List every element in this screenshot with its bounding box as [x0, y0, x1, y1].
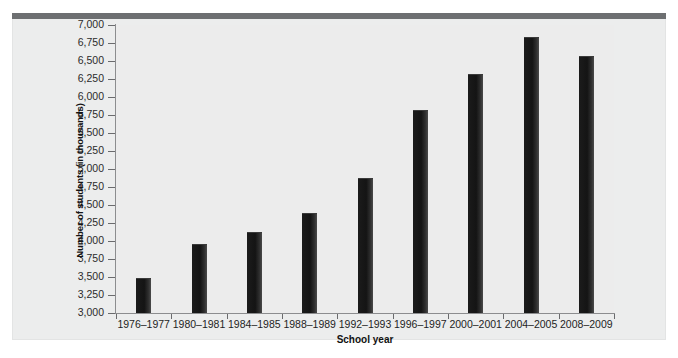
x-axis-line: [115, 313, 615, 314]
y-axis-tick-label-wrap: 4,250: [0, 217, 104, 228]
x-axis-category-label: 1984–1985: [227, 318, 282, 330]
y-axis-tick-label: 6,500: [4, 55, 104, 66]
y-axis-tick-label: 6,000: [4, 91, 104, 102]
x-axis-tick: [614, 314, 615, 319]
bar: [247, 232, 262, 313]
y-axis-tick-label-wrap: 6,000: [0, 91, 104, 102]
bar: [524, 37, 539, 313]
y-axis-tick: [108, 205, 115, 206]
y-axis-tick: [108, 97, 115, 98]
y-axis-tick-label: 5,000: [4, 163, 104, 174]
y-axis-tick-label-wrap: 5,750: [0, 109, 104, 120]
bars-layer: [116, 25, 614, 313]
y-axis-tick-label-wrap: 5,500: [0, 127, 104, 138]
y-axis-tick-label: 5,500: [4, 127, 104, 138]
y-axis-title: Number of students (in thousands): [74, 41, 85, 321]
bar: [358, 178, 373, 313]
y-axis-tick-label: 5,250: [4, 145, 104, 156]
y-axis-tick: [108, 133, 115, 134]
y-axis-tick-label-wrap: 4,500: [0, 199, 104, 210]
chart-figure: 7,0006,7506,5006,2506,0005,7505,5005,250…: [0, 0, 678, 358]
x-axis-category-label: 2008–2009: [559, 318, 614, 330]
y-axis-tick-label: 3,000: [4, 307, 104, 318]
y-axis-tick-label: 3,500: [4, 271, 104, 282]
bar: [579, 56, 594, 313]
y-axis-tick-label: 3,750: [4, 253, 104, 264]
y-axis-tick: [108, 277, 115, 278]
y-axis-tick: [108, 259, 115, 260]
y-axis-tick-label: 4,250: [4, 217, 104, 228]
y-axis-tick-label-wrap: 3,250: [0, 289, 104, 300]
x-axis-category-label: 2000–2001: [448, 318, 503, 330]
bar: [192, 244, 207, 313]
y-axis-tick: [108, 151, 115, 152]
y-axis-tick: [108, 43, 115, 44]
y-axis-tick-label: 5,750: [4, 109, 104, 120]
top-rule-divider: [12, 13, 666, 19]
y-axis-tick: [108, 241, 115, 242]
x-axis-category-label: 1988–1989: [282, 318, 337, 330]
bar: [468, 74, 483, 313]
y-axis-tick: [108, 79, 115, 80]
x-axis-category-label: 1980–1981: [171, 318, 226, 330]
y-axis-tick-label: 6,750: [4, 37, 104, 48]
y-axis-tick: [108, 313, 115, 314]
x-axis-category-label: 1992–1993: [337, 318, 392, 330]
y-axis-tick-label-wrap: 4,000: [0, 235, 104, 246]
bar: [302, 213, 317, 313]
y-axis-tick: [108, 25, 115, 26]
y-axis-tick-label: 6,250: [4, 73, 104, 84]
x-axis-category-label: 1976–1977: [116, 318, 171, 330]
y-axis-tick: [108, 169, 115, 170]
y-axis-tick: [108, 295, 115, 296]
y-axis-tick-label-wrap: 4,750: [0, 181, 104, 192]
y-axis-tick-label: 3,250: [4, 289, 104, 300]
y-axis-tick-label-wrap: 3,750: [0, 253, 104, 264]
y-axis-tick-label-wrap: 3,000: [0, 307, 104, 318]
x-axis-title: School year: [116, 334, 614, 345]
y-axis-tick-label: 4,750: [4, 181, 104, 192]
x-axis-category-label: 2004–2005: [503, 318, 558, 330]
y-axis-tick: [108, 223, 115, 224]
y-axis-tick: [108, 61, 115, 62]
y-axis-tick-label-wrap: 7,000: [0, 19, 104, 30]
y-axis-tick-label: 4,500: [4, 199, 104, 210]
y-axis-tick-label: 4,000: [4, 235, 104, 246]
y-axis-tick-label-wrap: 6,500: [0, 55, 104, 66]
y-axis-tick: [108, 115, 115, 116]
y-axis-tick-label-wrap: 6,250: [0, 73, 104, 84]
bar: [413, 110, 428, 313]
y-axis-tick: [108, 187, 115, 188]
y-axis-tick-label-wrap: 6,750: [0, 37, 104, 48]
y-axis-tick-label-wrap: 5,000: [0, 163, 104, 174]
y-axis-tick-label-wrap: 3,500: [0, 271, 104, 282]
y-axis-tick-label-wrap: 5,250: [0, 145, 104, 156]
bar: [136, 278, 151, 313]
y-axis-tick-label: 7,000: [4, 19, 104, 30]
x-axis-category-label: 1996–1997: [393, 318, 448, 330]
